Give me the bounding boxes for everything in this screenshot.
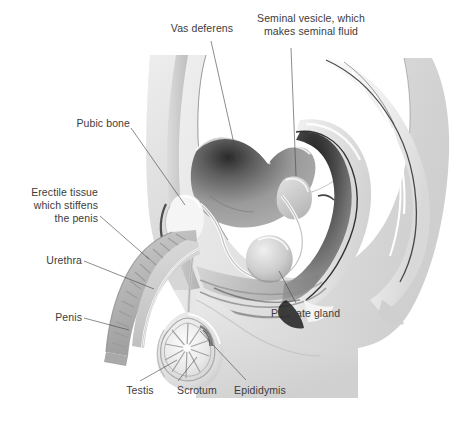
- label-seminal-vesicle-line1: Seminal vesicle, which: [246, 12, 376, 25]
- label-urethra: Urethra: [22, 254, 82, 267]
- anatomy-figure: Vas deferens Seminal vesicle, which make…: [0, 0, 467, 426]
- label-seminal-vesicle-line2: makes seminal fluid: [246, 25, 376, 38]
- label-pubic-bone: Pubic bone: [42, 117, 130, 130]
- label-erectile-tissue-line2: which stiffens: [12, 199, 98, 212]
- label-testis: Testis: [116, 384, 164, 397]
- label-erectile-tissue-line1: Erectile tissue: [12, 186, 98, 199]
- label-erectile-tissue-line3: the penis: [12, 212, 98, 225]
- label-penis: Penis: [30, 311, 82, 324]
- label-prostate-gland: Prostate gland: [271, 307, 371, 320]
- label-scrotum: Scrotum: [166, 384, 228, 397]
- label-epididymis: Epididymis: [222, 384, 298, 397]
- label-vas-deferens: Vas deferens: [156, 22, 248, 35]
- prostate-gland: [246, 235, 293, 283]
